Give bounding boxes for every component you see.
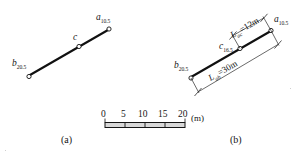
panel-b-dimtick-ab-end (275, 41, 282, 49)
panel-a-line-ba (30, 30, 108, 75)
figure-container: a10.5 b20.5 c a10.5 b20.5 c16.5 Lac=12m … (0, 0, 302, 157)
scale-unit-label: (m) (191, 113, 204, 123)
panel-b-dimtick-ac-end (261, 14, 268, 22)
panel-a-label-b-subscript: 20.5 (17, 64, 26, 70)
scale-tick-label-20: 20 (178, 109, 188, 119)
panel-a-label-c-name: c (73, 32, 77, 42)
panel-b-label-c: c16.5 (219, 42, 233, 53)
panel-b-dimtick-ab-start (195, 88, 202, 96)
scale-tick-label-0: 0 (101, 109, 106, 119)
panel-b-label-b-subscript: 20.5 (179, 66, 188, 72)
panel-a-point-a-marker (107, 27, 111, 31)
scan-speck (290, 88, 291, 89)
panel-b-label-a-subscript: 10.5 (279, 20, 288, 26)
caption-panel-a: (a) (61, 134, 72, 145)
panel-a-label-b: b20.5 (12, 59, 26, 70)
scale-tick-label-5: 5 (121, 109, 126, 119)
panel-a-label-c: c (73, 33, 77, 44)
panel-b-label-a: a10.5 (274, 15, 288, 26)
scale-tick-label-15: 15 (158, 109, 168, 119)
panel-b-witness-a-upper (263, 17, 271, 31)
scan-speck (5, 150, 6, 151)
caption-panel-b: (b) (230, 134, 242, 145)
panel-b-label-c-subscript: 16.5 (223, 47, 232, 53)
panel-a-label-a-subscript: 10.5 (101, 18, 110, 24)
panel-a-point-b-marker (27, 74, 31, 78)
panel-b-label-b: b20.5 (174, 61, 188, 72)
panel-a-label-a: a10.5 (96, 13, 110, 24)
panel-b-witness-b-lower (191, 78, 199, 93)
panel-b-witness-a-lower (271, 31, 279, 46)
panel-a-point-c-marker (77, 44, 81, 48)
scale-tick-label-10: 10 (138, 109, 148, 119)
